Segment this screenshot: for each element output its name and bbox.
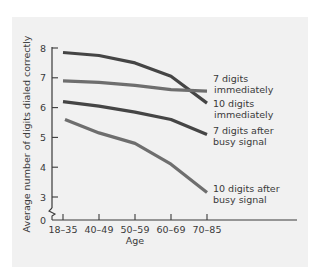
series-label: 7 digits afterbusy signal xyxy=(213,125,274,147)
y-axis-title: Average number of digits dialed correctl… xyxy=(21,35,32,232)
y-tick-label: 3 xyxy=(40,192,46,203)
x-tick-label: 18–35 xyxy=(49,224,78,235)
y-tick-label: 6 xyxy=(40,102,46,113)
y-tick-label: 8 xyxy=(40,43,46,54)
x-tick-label: 40–49 xyxy=(85,224,114,235)
series-label: 10 digits afterbusy signal xyxy=(213,183,280,205)
series-lines xyxy=(63,53,207,193)
series-line xyxy=(63,53,207,104)
x-tick-label: 70–85 xyxy=(193,224,222,235)
series-line xyxy=(63,102,207,135)
series-line xyxy=(65,120,207,193)
y-axis: 0345678 xyxy=(40,43,58,226)
series-labels: 10 digitsimmediately7 digitsimmediately7… xyxy=(213,73,280,205)
y-tick-label: 0 xyxy=(40,215,46,226)
y-tick-label: 7 xyxy=(40,72,46,83)
y-tick-label: 5 xyxy=(40,132,46,143)
line-chart: 0345678 18–3540–4950–5960–6970–85 10 dig… xyxy=(0,0,318,280)
x-axis-title: Age xyxy=(126,235,145,246)
x-tick-label: 60–69 xyxy=(157,224,186,235)
x-axis: 18–3540–4950–5960–6970–85 xyxy=(49,214,297,235)
x-tick-label: 50–59 xyxy=(121,224,150,235)
series-label: 7 digitsimmediately xyxy=(213,73,274,95)
series-label: 10 digitsimmediately xyxy=(213,98,274,120)
y-tick-label: 4 xyxy=(40,162,46,173)
